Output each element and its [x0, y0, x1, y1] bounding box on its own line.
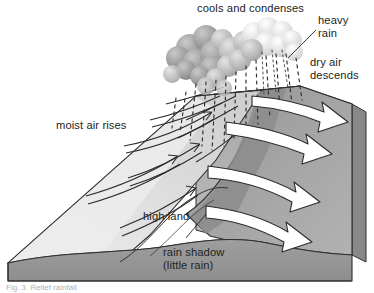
label-heavy-rain-line1: heavy	[318, 14, 348, 27]
label-moist-air-rises: moist air rises	[56, 119, 127, 132]
label-cools-and-condenses: cools and condenses	[197, 2, 304, 15]
diagram-canvas: cools and condenses heavy rain dry air d…	[0, 0, 374, 293]
label-high-land: high land	[143, 210, 189, 223]
label-rain-shadow-line1: rain shadow	[163, 246, 224, 259]
label-dry-air-descends-line2: descends	[310, 69, 359, 82]
label-heavy-rain-line2: rain	[318, 27, 337, 40]
figure-caption: Fig. 3 Relief rainfall	[6, 283, 77, 292]
label-rain-shadow-line2: (little rain)	[163, 259, 213, 272]
leader-heavy-rain	[288, 30, 316, 58]
label-dry-air-descends-line1: dry air	[310, 56, 342, 69]
